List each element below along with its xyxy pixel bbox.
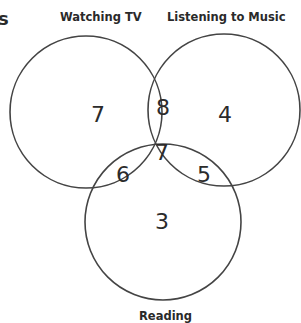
region-tv-reading: 6	[116, 162, 130, 187]
label-watching-tv: Watching TV	[60, 10, 142, 24]
label-listening-to-music: Listening to Music	[167, 10, 286, 24]
region-tv-only: 7	[91, 102, 105, 127]
region-reading-only: 3	[155, 209, 169, 234]
region-tv-music: 8	[156, 95, 170, 120]
circle-watching-tv	[10, 36, 162, 188]
region-all-three: 7	[155, 140, 169, 165]
region-music-reading: 5	[197, 162, 211, 187]
region-music-only: 4	[218, 102, 232, 127]
label-reading: Reading	[139, 309, 192, 323]
